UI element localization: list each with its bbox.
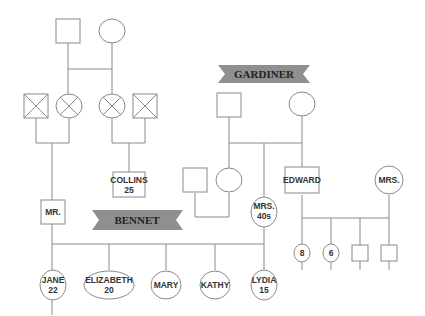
in-law-male-node bbox=[183, 168, 207, 192]
kathy-name: KATHY bbox=[201, 280, 230, 290]
lydia-name: LYDIA bbox=[252, 275, 277, 285]
kathy-node: KATHY bbox=[200, 271, 230, 299]
mr-bennet-name: MR. bbox=[45, 207, 61, 217]
elizabeth-node: ELIZABETH 20 bbox=[84, 271, 134, 299]
gardiner-label: GARDINER bbox=[234, 68, 295, 80]
collins-age: 25 bbox=[124, 185, 134, 195]
gardiner-grandmother-node bbox=[289, 92, 315, 116]
child-age: 6 bbox=[329, 248, 334, 258]
gardiner-son-node bbox=[381, 245, 397, 261]
mrs-gardiner-name: MRS. bbox=[378, 175, 399, 185]
elizabeth-name: ELIZABETH bbox=[85, 275, 133, 285]
gardiner-daughter-node bbox=[216, 168, 242, 192]
deceased-female-node bbox=[99, 94, 125, 118]
elizabeth-age: 20 bbox=[104, 285, 114, 295]
deceased-male-node bbox=[24, 94, 48, 118]
mrs-bennet-age: 40s bbox=[257, 211, 271, 221]
deceased-male-node bbox=[133, 94, 157, 118]
child-age: 8 bbox=[300, 248, 305, 258]
gardiner-child-6-node: 6 bbox=[323, 244, 339, 262]
lydia-age: 15 bbox=[259, 285, 269, 295]
jane-name: JANE bbox=[42, 275, 65, 285]
family-tree: COLLINS 25 GARDINER MRS. 40s EDWARD MRS.… bbox=[0, 0, 425, 316]
great-grandfather-node bbox=[56, 19, 80, 43]
deceased-female-node bbox=[56, 94, 82, 118]
great-grandmother-node bbox=[99, 19, 125, 43]
bennet-label: BENNET bbox=[114, 214, 160, 226]
edward-name: EDWARD bbox=[283, 175, 321, 185]
gardiner-ribbon: GARDINER bbox=[218, 65, 310, 83]
lydia-node: LYDIA 15 bbox=[251, 270, 277, 300]
edward-node: EDWARD bbox=[283, 167, 321, 193]
jane-node: JANE 22 bbox=[40, 270, 66, 300]
gardiner-grandfather-node bbox=[217, 93, 241, 117]
gardiner-son-node bbox=[352, 245, 368, 261]
mr-bennet-node: MR. bbox=[41, 200, 65, 224]
jane-age: 22 bbox=[48, 285, 58, 295]
collins-name: COLLINS bbox=[110, 175, 148, 185]
mrs-gardiner-node: MRS. bbox=[375, 166, 403, 194]
mary-name: MARY bbox=[154, 280, 179, 290]
mary-node: MARY bbox=[151, 271, 181, 299]
mrs-bennet-name: MRS. bbox=[253, 201, 274, 211]
bennet-ribbon: BENNET bbox=[92, 210, 183, 230]
mrs-bennet-node: MRS. 40s bbox=[251, 197, 277, 227]
collins-node: COLLINS 25 bbox=[110, 172, 148, 197]
gardiner-child-8-node: 8 bbox=[294, 244, 310, 262]
